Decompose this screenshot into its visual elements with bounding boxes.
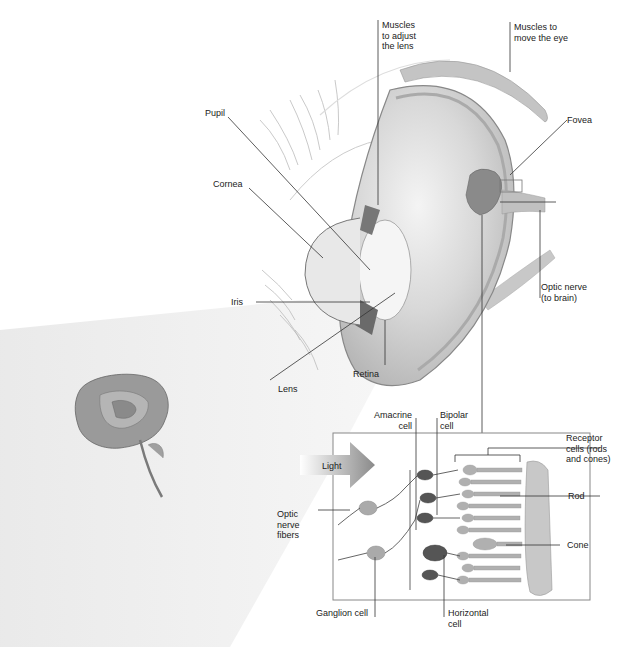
label-pupil: Pupil bbox=[205, 108, 225, 119]
retina-detail-box bbox=[300, 433, 600, 600]
label-receptor-cells: Receptor cells (rods and cones) bbox=[566, 433, 611, 465]
label-muscles-move-eye: Muscles to move the eye bbox=[514, 22, 568, 43]
label-optic-nerve: Optic nerve (to brain) bbox=[541, 282, 587, 303]
label-light: Light bbox=[322, 461, 342, 472]
label-amacrine-cell: Amacrine cell bbox=[374, 410, 412, 431]
label-retina: Retina bbox=[353, 369, 379, 380]
label-optic-nerve-fibers: Optic nerve fibers bbox=[277, 509, 300, 541]
label-cornea: Cornea bbox=[213, 179, 243, 190]
label-bipolar-cell: Bipolar cell bbox=[440, 410, 468, 431]
label-iris: Iris bbox=[231, 297, 243, 308]
label-fovea: Fovea bbox=[567, 115, 592, 126]
diagram-artwork bbox=[0, 0, 628, 647]
label-cone: Cone bbox=[567, 540, 589, 551]
label-lens: Lens bbox=[278, 384, 298, 395]
label-muscles-adjust-lens: Muscles to adjust the lens bbox=[382, 20, 416, 52]
label-rod: Rod bbox=[568, 491, 585, 502]
label-ganglion-cell: Ganglion cell bbox=[316, 608, 368, 619]
label-horizontal-cell: Horizontal cell bbox=[448, 608, 489, 629]
eye-diagram: Muscles to adjust the lens Muscles to mo… bbox=[0, 0, 628, 647]
